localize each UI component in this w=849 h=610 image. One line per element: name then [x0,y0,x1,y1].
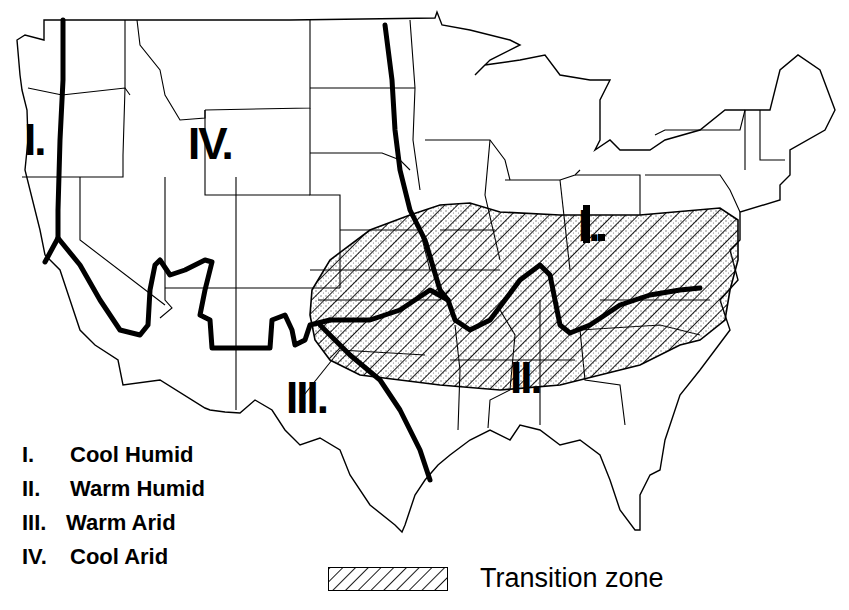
legend-text: Cool Humid [70,438,193,472]
zone-label-i-east: I. [578,204,598,248]
zone-label-ii: II. [510,356,541,400]
transition-legend: Transition zone [328,563,664,594]
zone-label-i-west: I. [24,118,44,162]
legend-item-cool-arid: IV. Cool Arid [22,540,205,574]
legend-text: Warm Arid [66,506,176,540]
legend-numeral: I. [22,438,70,472]
legend-text: Cool Arid [70,540,168,574]
legend-numeral: III. [22,506,66,540]
hatch-swatch-icon [328,567,448,591]
legend-text: Warm Humid [70,472,205,506]
legend-item-warm-humid: II. Warm Humid [22,472,205,506]
legend-item-cool-humid: I. Cool Humid [22,438,205,472]
boundary-west [45,20,63,262]
zone-label-iv: IV. [188,122,232,166]
legend-numeral: II. [22,472,70,506]
zone-label-iii: III. [286,376,327,420]
marker [598,234,605,241]
transition-zone-label: Transition zone [480,563,664,594]
legend-numeral: IV. [22,540,70,574]
zone-legend: I. Cool Humid II. Warm Humid III. Warm A… [22,438,205,574]
legend-item-warm-arid: III. Warm Arid [22,506,205,540]
